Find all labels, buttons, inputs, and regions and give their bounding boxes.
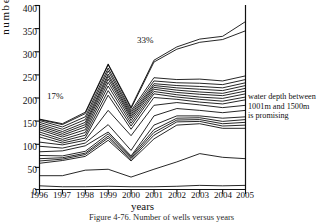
annotation-33-percent: 33% xyxy=(137,36,154,45)
annotation-17-percent: 17% xyxy=(47,92,64,101)
note-line-2: 1001m and 1500m xyxy=(248,102,323,112)
note-line-3: is promising xyxy=(248,111,323,121)
series-line xyxy=(40,185,246,186)
x-tick-2005: 2005 xyxy=(232,191,258,200)
figure-container: number of wells 400 350 300 250 200 150 … xyxy=(0,0,323,223)
annotation-water-depth-note: water depth between 1001m and 1500m is p… xyxy=(248,92,323,121)
series-line xyxy=(40,109,246,151)
x-axis-title: years xyxy=(0,200,285,212)
note-line-1: water depth between xyxy=(248,92,323,102)
series-lines xyxy=(40,22,246,187)
figure-caption: Figure 4-76. Number of wells versus year… xyxy=(0,212,323,222)
y-tick-marks xyxy=(35,6,40,190)
